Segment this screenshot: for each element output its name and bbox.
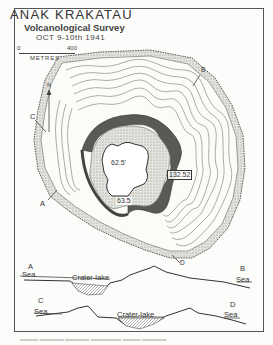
section-cd-end-marker: D — [230, 300, 235, 309]
scale-line — [19, 53, 75, 54]
section-marker-b: B — [201, 66, 205, 73]
map-title: ANAK KRAKATAU — [0, 7, 273, 22]
scale-unit: METRES — [30, 55, 60, 61]
section-cd-right-label: Sea — [224, 310, 237, 319]
section-cd-start-marker: C — [38, 296, 43, 305]
section-ab-end-marker: B — [240, 264, 245, 273]
summit-elevation-label: 132.52 — [167, 170, 192, 180]
elevation-label: 63.5 — [116, 197, 132, 205]
map-subtitle: Volcanological Survey — [0, 22, 273, 33]
survey-date: OCT 9-10th 1941 — [0, 33, 273, 42]
section-a-b — [20, 266, 252, 295]
elevation-label: 62.5' — [110, 159, 127, 167]
section-marker-c: C — [30, 112, 35, 121]
north-label: N — [47, 82, 51, 88]
scale-bar: 0 400 METRES — [17, 46, 77, 64]
scale-start: 0 — [17, 45, 20, 51]
section-cd-lake-label: Crater-lake — [117, 310, 154, 319]
section-marker-a: A — [40, 199, 45, 208]
section-ab-right-label: Sea — [236, 275, 249, 284]
section-ab-lake-label: Crater-lake — [72, 273, 109, 282]
section-marker-d: D — [180, 259, 185, 266]
scale-end: 400 — [67, 45, 77, 51]
section-ab-left-label: Sea — [22, 270, 35, 279]
section-cd-left-label: Sea — [34, 307, 47, 316]
figure-caption-faded: ▬▬▬ ▬▬▬▬ ▬▬▬▬ ▬▬▬▬▬ ▬▬▬ ▬▬▬▬ — [20, 336, 260, 342]
